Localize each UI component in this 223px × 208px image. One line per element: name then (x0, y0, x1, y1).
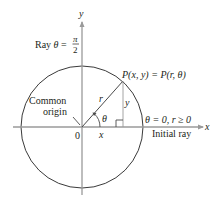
ray-pi-over-2-label: Ray θ = π 2 (35, 34, 79, 55)
angle-arc (94, 114, 100, 128)
x-leg-label: x (98, 129, 104, 140)
common-origin-label-line1: Common (29, 95, 66, 106)
fraction-denominator: 2 (73, 45, 78, 55)
radius-label: r (99, 93, 103, 104)
y-axis-label: y (78, 8, 84, 19)
svg-text:Ray θ =: Ray θ = (35, 39, 67, 50)
angle-label: θ (102, 113, 107, 124)
fraction-numerator: π (73, 34, 78, 44)
right-angle-marker (116, 120, 123, 127)
common-origin-label-line2: origin (43, 106, 67, 117)
initial-condition-label: θ = 0, r ≥ 0 (145, 114, 191, 125)
common-origin-leader (73, 117, 80, 125)
x-axis-label: x (204, 121, 210, 132)
origin-label: 0 (75, 130, 80, 141)
initial-ray-label: Initial ray (152, 128, 191, 139)
polar-diagram: y x 0 Ray θ = π 2 P(x, y) = P(r, θ) r y … (0, 0, 223, 208)
y-leg-label: y (124, 97, 130, 108)
point-label: P(x, y) = P(r, θ) (121, 69, 187, 81)
